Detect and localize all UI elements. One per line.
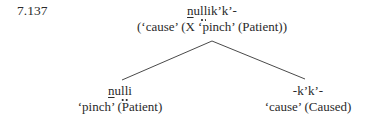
left-morpheme-form: nulli <box>78 83 163 99</box>
tree-left-child-node: nulli ‘pinch’ (Patient) <box>78 83 163 115</box>
morpheme-segment: i <box>128 83 132 98</box>
morpheme-segment: l <box>204 3 208 19</box>
tree-right-child-node: -k’k’- ‘cause’ (Caused) <box>265 83 352 115</box>
morpheme-segment: l <box>125 83 129 99</box>
right-branch-line <box>212 41 305 79</box>
morpheme-segment: ik’k’- <box>207 3 237 18</box>
right-morpheme-gloss: ‘cause’ (Caused) <box>265 99 352 115</box>
root-morpheme-form: nullik’k’- <box>137 3 287 19</box>
root-morpheme-gloss: (‘cause’ (X ‘pinch’ (Patient)) <box>137 19 287 35</box>
tree-root-node: nullik’k’- (‘cause’ (X ‘pinch’ (Patient)… <box>137 3 287 35</box>
left-branch-line <box>122 41 212 80</box>
right-morpheme-form: -k’k’- <box>265 83 352 99</box>
left-morpheme-gloss: ‘pinch’ (Patient) <box>78 99 163 115</box>
